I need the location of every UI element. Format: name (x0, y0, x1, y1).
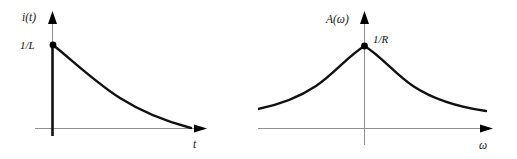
y-axis-label: i(t) (22, 11, 36, 24)
peak-value-label: 1/L (20, 39, 35, 51)
figure-root: i(t) 1/L t A(ω) 1/R ω (0, 0, 517, 159)
impulse-decay-curve (53, 45, 191, 128)
y-axis-label: A(ω) (325, 13, 349, 26)
amplitude-resonance-curve (258, 46, 486, 111)
x-axis-label: ω (479, 139, 487, 151)
y-axis-arrowhead (48, 11, 57, 24)
peak-value-label: 1/R (373, 33, 389, 45)
y-axis-arrowhead (360, 11, 369, 24)
impulse-response-svg: i(t) 1/L t (0, 0, 258, 159)
chart-impulse-response: i(t) 1/L t (0, 0, 258, 159)
x-axis-arrowhead (480, 125, 493, 133)
resonance-peak-marker (361, 43, 368, 50)
initial-value-marker (50, 42, 57, 49)
x-axis-arrowhead (194, 125, 207, 133)
amplitude-response-svg: A(ω) 1/R ω (258, 0, 517, 159)
x-axis-label: t (193, 138, 197, 150)
chart-amplitude-response: A(ω) 1/R ω (258, 0, 517, 159)
